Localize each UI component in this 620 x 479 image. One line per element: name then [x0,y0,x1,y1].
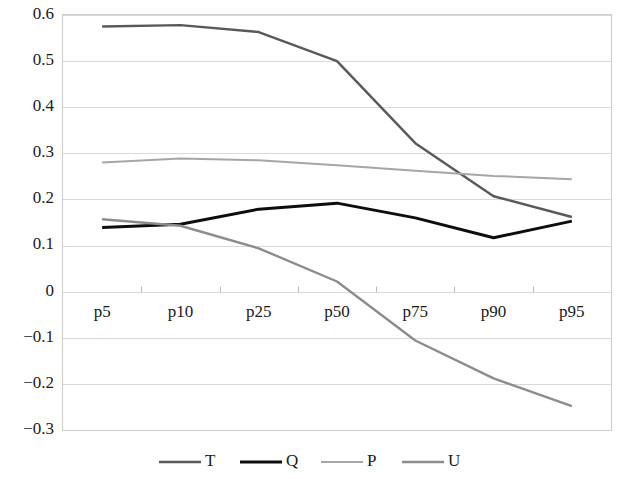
y-tick-label-3: 0.3 [33,142,54,161]
y-tick-label-0: 0.6 [33,4,54,23]
y-tick-label-6: 0 [46,281,55,300]
y-tick-label-7: −0.1 [23,327,54,346]
x-tick-label-p5: p5 [94,302,111,321]
y-tick-label-5: 0.1 [33,234,54,253]
legend-label-T[interactable]: T [205,451,216,470]
x-tick-label-p10: p10 [168,302,194,321]
x-tick-label-p95: p95 [559,302,585,321]
y-tick-label-2: 0.4 [33,96,55,115]
legend-label-P[interactable]: P [367,451,376,470]
x-tick-label-p50: p50 [324,302,350,321]
x-tick-label-p90: p90 [481,302,507,321]
y-tick-label-4: 0.2 [33,188,54,207]
y-tick-label-1: 0.5 [33,50,54,69]
y-tick-label-8: −0.2 [23,373,54,392]
x-tick-label-p25: p25 [246,302,272,321]
x-tick-label-p75: p75 [403,302,429,321]
line-chart: 0.60.50.40.30.20.10−0.1−0.2−0.3 p5p10p25… [0,0,620,479]
legend-label-Q[interactable]: Q [286,451,298,470]
y-tick-label-9: −0.3 [23,419,54,438]
chart-background [0,0,620,479]
legend-label-U[interactable]: U [448,451,460,470]
chart-canvas: 0.60.50.40.30.20.10−0.1−0.2−0.3 p5p10p25… [0,0,620,479]
